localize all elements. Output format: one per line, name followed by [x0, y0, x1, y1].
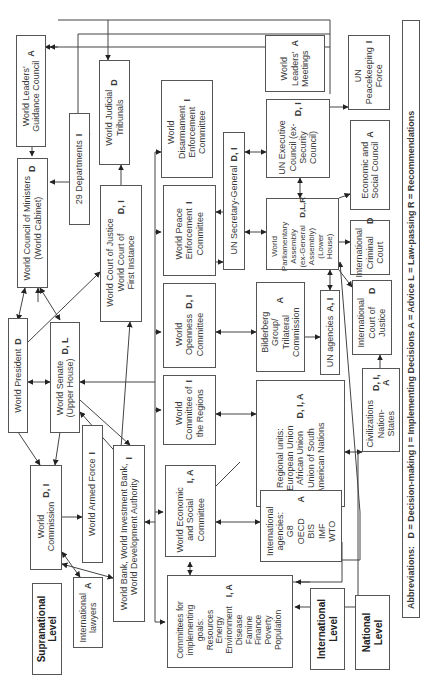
node-world-president: World PresidentD — [8, 318, 28, 433]
node-committees-goals: Committees for implementing goals: Resou… — [167, 575, 293, 668]
node-econ-social-committee: World Economic and Social CommitteeI, A — [165, 465, 216, 557]
node-judicial-tribunals: World Judicial TribunalsD — [99, 60, 130, 165]
node-openness-committee: World Openness CommitteeD, I — [163, 283, 216, 368]
node-regional-units: Regional units: European Union African U… — [256, 380, 345, 507]
level-supranational: Supranational Level — [32, 583, 62, 675]
level-national: National Level — [355, 595, 390, 670]
node-world-court: World Court of Justice World Court of Fi… — [100, 185, 142, 322]
abbreviations-legend: Abbreviations: D = Decision-making I = I… — [402, 20, 420, 618]
node-peace-enforcement: World Peace Enforcement CommitteeI — [163, 185, 216, 276]
node-committee-regions: World Committee of the RegionsI — [163, 375, 216, 445]
node-leaders-guidance-council: World Leaders' Guidance CouncilA — [16, 35, 46, 147]
node-intl-criminal-court: International Criminal CourtD — [350, 220, 390, 275]
node-world-bank: World Bank, World Investment Bank, World… — [113, 445, 145, 622]
level-international: International Level — [310, 588, 345, 670]
node-un-secretary-general: UN Secretary-GeneralD, I — [223, 132, 245, 270]
node-econ-social-council: Economic and Social CouncilA — [350, 120, 390, 210]
node-un-executive-council: UN Executive Council (ex- Security Counc… — [266, 99, 330, 178]
node-civilizations: Civilizations Nation-StatesD, I, A — [362, 368, 400, 452]
node-disarmament-enforcement: World Disarmament Enforcement CommitteeI — [161, 80, 213, 178]
node-29-departments: 29 DepartmentsI — [69, 113, 90, 225]
node-armed-force: World Armed ForceI — [82, 425, 103, 563]
node-parliamentary-assembly: World Parliamentary Assembly (ex-General… — [266, 198, 339, 270]
node-intl-court-justice: International Court of JusticeD — [352, 280, 392, 355]
node-world-commission: World CommissionD, I — [30, 465, 62, 570]
node-un-agencies: UN agenciesA, I — [320, 290, 340, 375]
node-bilderberg: Bilderberg Group/ Trilateral CommissionA — [256, 282, 305, 372]
node-intl-lawyers: International lawyersA — [73, 577, 103, 648]
node-intl-agencies: International agencies: G8 OECD BIS IMF … — [260, 490, 342, 562]
node-world-senate: World Senate (Upper House)D, L — [50, 322, 80, 433]
node-council-of-ministers: World Council of Ministers (World Cabine… — [17, 158, 48, 288]
governance-diagram: World Leaders' Guidance CouncilA World C… — [0, 0, 432, 682]
node-un-peacekeeping: UN Peacekeeping ForceI — [348, 35, 390, 110]
node-leaders-meetings: World Leaders' MeetingsA — [265, 35, 325, 92]
